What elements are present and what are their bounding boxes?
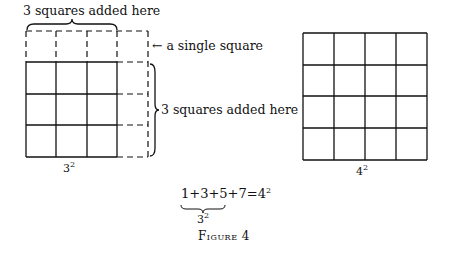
- right-grid-label: 42: [356, 163, 368, 178]
- right-brace: [150, 64, 159, 156]
- corner-label: ← a single square: [152, 38, 263, 53]
- top-label: 3 squares added here: [23, 3, 160, 18]
- left-grid-label: 32: [63, 160, 75, 175]
- equation: 1+3+5+7=42: [181, 186, 271, 201]
- left-solid-grid: [26, 62, 117, 157]
- figure-caption: Figure 4: [198, 229, 250, 243]
- right-grid: [303, 33, 427, 160]
- underbrace-label: 32: [197, 211, 209, 226]
- side-label: 3 squares added here: [161, 102, 298, 117]
- top-brace: [27, 19, 117, 30]
